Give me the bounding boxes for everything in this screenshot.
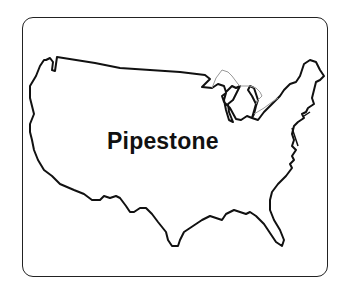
- map-label: Pipestone: [0, 128, 353, 155]
